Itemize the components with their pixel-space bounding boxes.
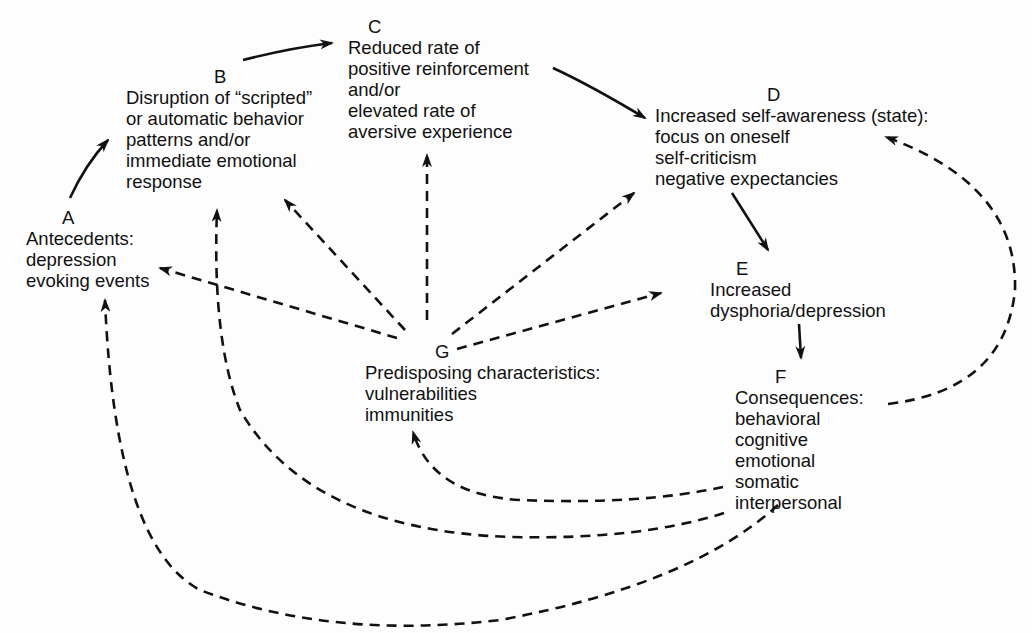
node-e-letter: E [710, 258, 886, 279]
arrow-g-to-d [452, 193, 634, 334]
node-b-line: or automatic behavior [126, 108, 312, 129]
node-d-letter: D [655, 84, 929, 105]
node-g-line: vulnerabilities [365, 383, 600, 404]
node-d-line: self-criticism [655, 147, 929, 168]
node-f-line: emotional [735, 450, 864, 471]
node-a-letter: A [26, 207, 149, 228]
node-c-letter: C [348, 16, 529, 37]
arrow-g-to-b [285, 200, 405, 330]
node-g-letter: G [365, 341, 600, 362]
node-b-line: response [126, 171, 312, 192]
node-f-consequences: F Consequences: behavioral cognitive emo… [735, 366, 864, 513]
arrow-d-to-e [732, 193, 768, 250]
node-f-line: Consequences: [735, 387, 864, 408]
node-f-letter: F [735, 366, 864, 387]
node-c-line: elevated rate of [348, 100, 529, 121]
node-a-line: Antecedents: [26, 228, 149, 249]
node-g-line: Predisposing characteristics: [365, 362, 600, 383]
node-d-line: Increased self-awareness (state): [655, 105, 929, 126]
node-d-line: negative expectancies [655, 168, 929, 189]
node-b-disruption: B Disruption of “scripted” or automatic … [126, 66, 312, 192]
arrow-c-to-d [553, 68, 645, 118]
arrow-g-to-a [160, 268, 397, 338]
node-d-self-awareness: D Increased self-awareness (state): focu… [655, 84, 929, 189]
node-c-line: aversive experience [348, 121, 529, 142]
node-c-line: Reduced rate of [348, 37, 529, 58]
node-c-reduced-reinforcement: C Reduced rate of positive reinforcement… [348, 16, 529, 142]
node-g-line: immunities [365, 404, 600, 425]
node-c-line: positive reinforcement [348, 58, 529, 79]
node-a-line: evoking events [26, 270, 149, 291]
arrow-a-to-b [70, 140, 108, 198]
arrow-f-to-g [413, 432, 723, 501]
node-f-line: somatic [735, 471, 864, 492]
node-a-antecedents: A Antecedents: depression evoking events [26, 207, 149, 291]
node-e-line: Increased [710, 279, 886, 300]
node-c-line: and/or [348, 79, 529, 100]
node-a-line: depression [26, 249, 149, 270]
node-b-line: immediate emotional [126, 150, 312, 171]
node-e-line: dysphoria/depression [710, 300, 886, 321]
arrow-e-to-f [799, 324, 801, 358]
node-b-line: patterns and/or [126, 129, 312, 150]
arrow-b-to-c [243, 43, 332, 60]
node-f-line: behavioral [735, 408, 864, 429]
diagram-canvas: A Antecedents: depression evoking events… [0, 0, 1032, 633]
node-f-line: cognitive [735, 429, 864, 450]
node-g-predisposing: G Predisposing characteristics: vulnerab… [365, 341, 600, 425]
node-d-line: focus on oneself [655, 126, 929, 147]
node-f-line: interpersonal [735, 492, 864, 513]
node-b-letter: B [126, 66, 312, 87]
node-e-dysphoria: E Increased dysphoria/depression [710, 258, 886, 321]
node-b-line: Disruption of “scripted” [126, 87, 312, 108]
